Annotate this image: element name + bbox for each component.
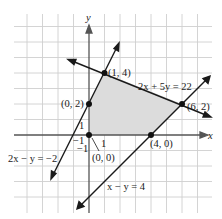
line-label-2x-minus-y: 2x − y = −2 <box>8 153 57 164</box>
vertex-0-2 <box>86 101 92 107</box>
arrow-head-icon <box>203 112 211 117</box>
vertex-label-1-4: (1, 4) <box>108 67 131 79</box>
origin-leader-line <box>92 138 99 151</box>
vertex-label-0-2: (0, 2) <box>61 98 84 110</box>
y-axis-label: y <box>85 12 91 23</box>
graph-canvas: y x (1, 4) (0, 2) (6, 2) (4, 0) (0, 0) 2… <box>0 0 222 219</box>
feasible-region-diagram: y x (1, 4) (0, 2) (6, 2) (4, 0) (0, 0) 2… <box>0 0 222 219</box>
line-label-2x-plus-5y: 2x + 5y = 22 <box>138 81 192 92</box>
x-axis-label: x <box>207 130 213 141</box>
arrow-head-icon <box>114 43 119 51</box>
vertex-6-2 <box>179 101 185 107</box>
vertex-label-4-0: (4, 0) <box>150 138 173 150</box>
tick-label-y-neg-1: −1 <box>77 143 88 154</box>
vertex-label-6-2: (6, 2) <box>187 101 210 113</box>
vertex-1-4 <box>102 70 108 76</box>
tick-label-x-pos-1: 1 <box>101 138 106 149</box>
arrow-head-icon <box>68 60 76 65</box>
x-axis-arrow-icon <box>200 132 208 138</box>
line-label-x-minus-y: x − y = 4 <box>107 181 146 192</box>
arrow-head-icon <box>51 171 56 179</box>
vertex-0-0 <box>86 132 92 138</box>
tick-label-y-pos-1: 1 <box>79 120 84 131</box>
vertex-label-0-0: (0, 0) <box>92 152 115 164</box>
